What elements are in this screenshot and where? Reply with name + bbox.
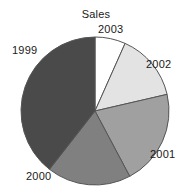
pie-label-2003: 2003 [98, 23, 123, 35]
pie-label-2001: 2001 [150, 148, 175, 160]
pie-label-2002: 2002 [146, 58, 171, 70]
pie-chart-graphic [0, 0, 192, 196]
pie-label-1999: 1999 [12, 44, 37, 56]
pie-chart-screenshot: Sales 2003 2002 2001 2000 1999 [0, 0, 192, 196]
pie-label-2000: 2000 [26, 170, 51, 182]
